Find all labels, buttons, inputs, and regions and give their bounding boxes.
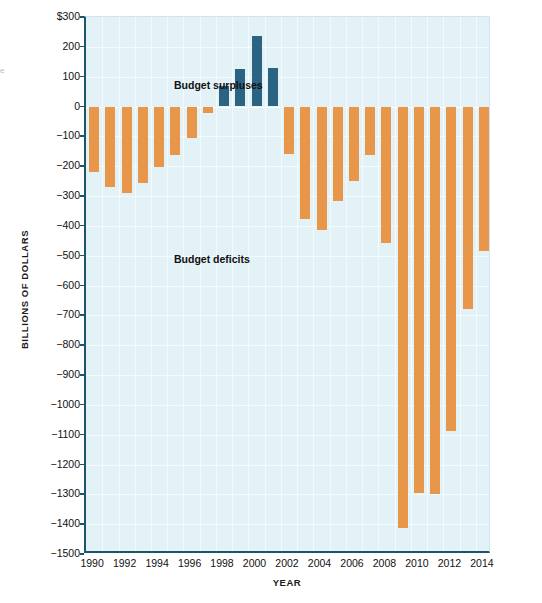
bar-2007 (365, 107, 375, 155)
bar-2009 (398, 107, 408, 529)
gridline-horizontal (86, 226, 489, 227)
y-tick-label: −200 (2, 160, 80, 170)
gridline-horizontal (86, 345, 489, 346)
gridline-vertical (119, 17, 120, 551)
y-tick-label: 100 (2, 71, 80, 81)
gridline-vertical (460, 17, 461, 551)
bar-2008 (381, 107, 391, 244)
gridline-vertical (248, 17, 249, 551)
gridline-vertical (232, 17, 233, 551)
gridline-vertical (167, 17, 168, 551)
bar-1997 (203, 107, 213, 114)
bar-2010 (414, 107, 424, 493)
bar-2004 (317, 107, 327, 230)
bar-2002 (284, 107, 294, 154)
annotation-budget-surpluses: Budget surpluses (174, 79, 263, 91)
gridline-vertical (297, 17, 298, 551)
bar-2003 (300, 107, 310, 220)
y-tick-label: −900 (2, 369, 80, 379)
y-tick-label: −600 (2, 280, 80, 290)
gridline-horizontal (86, 524, 489, 525)
bar-1990 (89, 107, 99, 173)
gridline-horizontal (86, 77, 489, 78)
gridline-horizontal (86, 435, 489, 436)
y-tick-mark (80, 553, 84, 555)
y-tick-label: −400 (2, 220, 80, 230)
budget-surplus-deficit-chart: e BILLIONS OF DOLLARS $3002001000−100−20… (0, 0, 542, 603)
gridline-vertical (378, 17, 379, 551)
gridline-horizontal (86, 465, 489, 466)
bar-1993 (138, 107, 148, 183)
gridline-vertical (183, 17, 184, 551)
gridline-horizontal (86, 315, 489, 316)
y-tick-label: $300 (2, 11, 80, 21)
x-axis-title: YEAR (84, 577, 490, 588)
bar-1991 (105, 107, 115, 187)
y-tick-label: 0 (2, 101, 80, 111)
y-tick-label: −1300 (2, 488, 80, 498)
gridline-vertical (313, 17, 314, 551)
bar-2000 (252, 36, 262, 106)
gridline-horizontal (86, 286, 489, 287)
gridline-vertical (151, 17, 152, 551)
gridline-vertical (476, 17, 477, 551)
gridline-horizontal (86, 375, 489, 376)
gridline-vertical (443, 17, 444, 551)
bar-2012 (446, 107, 456, 431)
gridline-horizontal (86, 196, 489, 197)
gridline-horizontal (86, 47, 489, 48)
y-tick-label: −1200 (2, 459, 80, 469)
annotation-budget-deficits: Budget deficits (174, 253, 250, 265)
bar-2011 (430, 107, 440, 495)
gridline-vertical (346, 17, 347, 551)
y-tick-label: −300 (2, 190, 80, 200)
gridline-vertical (265, 17, 266, 551)
gridline-vertical (330, 17, 331, 551)
gridline-vertical (216, 17, 217, 551)
bar-1992 (122, 107, 132, 194)
bar-1995 (170, 107, 180, 156)
y-tick-label: −1500 (2, 548, 80, 558)
gridline-vertical (395, 17, 396, 551)
y-tick-label: −700 (2, 309, 80, 319)
y-tick-label: 200 (2, 41, 80, 51)
x-tick-label: 2014 (462, 557, 502, 569)
bar-2013 (463, 107, 473, 310)
y-tick-label: −1400 (2, 518, 80, 528)
y-tick-label: −1000 (2, 399, 80, 409)
gridline-horizontal (86, 405, 489, 406)
gridline-horizontal (86, 256, 489, 257)
y-axis-tick-labels: $3002001000−100−200−300−400−500−600−700−… (0, 0, 80, 603)
gridline-vertical (200, 17, 201, 551)
bar-2006 (349, 107, 359, 181)
x-axis-tick-labels: 1990199219941996199820002002200420062008… (84, 557, 490, 573)
y-tick-label: −800 (2, 339, 80, 349)
gridline-horizontal (86, 494, 489, 495)
gridline-vertical (102, 17, 103, 551)
y-tick-label: −1100 (2, 429, 80, 439)
y-tick-label: −500 (2, 250, 80, 260)
bar-1994 (154, 107, 164, 168)
bar-2014 (479, 107, 489, 252)
y-tick-label: −100 (2, 130, 80, 140)
gridline-vertical (281, 17, 282, 551)
gridline-vertical (135, 17, 136, 551)
gridline-vertical (411, 17, 412, 551)
bar-2005 (333, 107, 343, 202)
gridline-vertical (427, 17, 428, 551)
plot-area: Budget surpluses Budget deficits (84, 16, 490, 553)
bar-2001 (268, 68, 278, 106)
gridline-vertical (362, 17, 363, 551)
bar-1996 (187, 107, 197, 139)
